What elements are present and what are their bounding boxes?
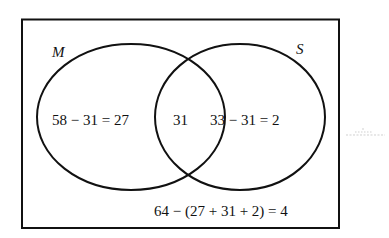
region-only-s-expression: 33 − 31 = 2 <box>210 113 279 128</box>
region-outside-expression: 64 − (27 + 31 + 2) = 4 <box>154 204 288 219</box>
scan-artifact-mark <box>346 129 385 135</box>
set-s-label: S <box>296 42 304 57</box>
region-only-m-expression: 58 − 31 = 27 <box>52 113 129 128</box>
set-m-label: M <box>52 45 65 60</box>
region-intersection-value: 31 <box>173 113 188 128</box>
